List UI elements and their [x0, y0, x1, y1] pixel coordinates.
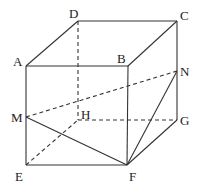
label-N: N	[180, 64, 190, 79]
label-D: D	[69, 6, 78, 21]
label-B: B	[117, 51, 126, 66]
edge-FG	[127, 120, 177, 165]
edge-AD	[26, 21, 78, 66]
label-F: F	[129, 169, 136, 184]
label-C: C	[180, 8, 189, 23]
edge-BC	[128, 21, 177, 66]
hidden-edge-EH	[26, 120, 78, 165]
label-A: A	[13, 54, 23, 69]
hidden-segment-MN	[26, 71, 177, 117]
segment-MF	[26, 117, 127, 165]
edge-BF	[127, 66, 128, 165]
segment-FN	[127, 71, 177, 165]
cube-diagram: A B C D E F G H M N	[0, 0, 198, 189]
label-M: M	[11, 110, 23, 125]
label-H: H	[81, 107, 90, 122]
label-G: G	[180, 113, 189, 128]
label-E: E	[15, 169, 23, 184]
